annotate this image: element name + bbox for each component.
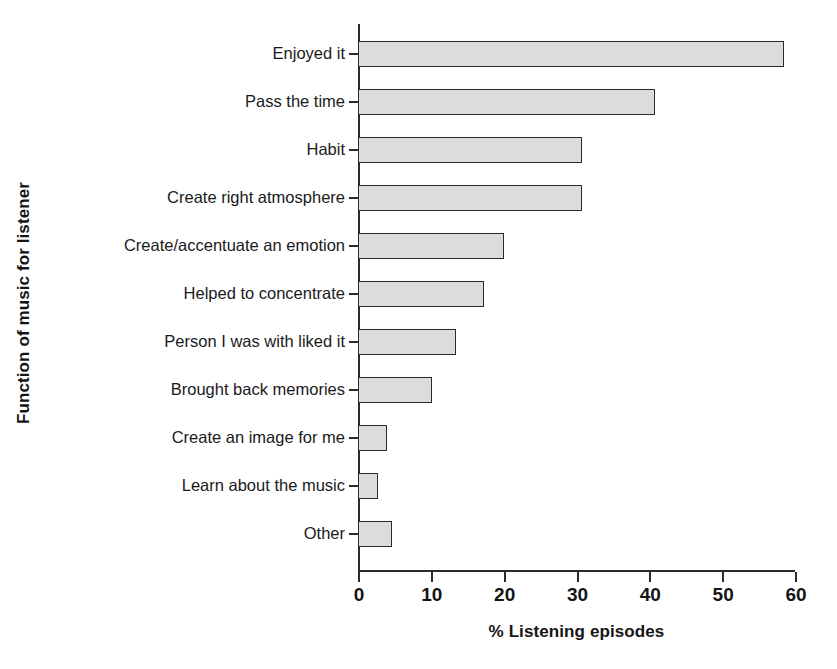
y-axis-title: Function of music for listener — [8, 18, 40, 588]
y-axis-tick — [349, 197, 358, 199]
category-label: Habit — [306, 139, 345, 159]
y-axis-tick — [349, 437, 358, 439]
x-axis-tick — [795, 572, 797, 582]
bar — [358, 137, 582, 163]
y-axis-tick — [349, 293, 358, 295]
y-axis-tick — [349, 245, 358, 247]
bar — [358, 41, 784, 67]
x-axis-tick-label: 50 — [703, 584, 743, 606]
category-label: Create right atmosphere — [167, 187, 345, 207]
x-axis-tick-label: 30 — [558, 584, 598, 606]
x-axis-tick-label: 40 — [630, 584, 670, 606]
x-axis-tick — [431, 572, 433, 582]
bar — [358, 185, 582, 211]
y-axis-tick — [349, 101, 358, 103]
y-axis-tick — [349, 149, 358, 151]
bar — [358, 473, 378, 499]
x-axis-tick — [504, 572, 506, 582]
category-label: Learn about the music — [182, 475, 345, 495]
bar — [358, 521, 392, 547]
category-label: Pass the time — [245, 91, 345, 111]
x-axis-tick — [649, 572, 651, 582]
bar-chart: Function of music for listener Enjoyed i… — [0, 0, 837, 669]
category-label: Create an image for me — [172, 427, 345, 447]
bar — [358, 377, 432, 403]
x-axis-tick-label: 0 — [339, 584, 379, 606]
y-axis-tick — [349, 389, 358, 391]
category-label: Other — [304, 523, 345, 543]
x-axis-tick — [577, 572, 579, 582]
x-axis-tick — [722, 572, 724, 582]
plot-area: Enjoyed itPass the timeHabitCreate right… — [358, 24, 798, 570]
y-axis-tick — [349, 53, 358, 55]
bar — [358, 329, 456, 355]
category-label: Helped to concentrate — [184, 283, 345, 303]
bar — [358, 89, 655, 115]
category-label: Enjoyed it — [273, 43, 345, 63]
x-axis-tick — [358, 572, 360, 582]
bar — [358, 281, 484, 307]
y-axis-tick — [349, 485, 358, 487]
x-axis-tick-label: 10 — [412, 584, 452, 606]
x-axis-tick-label: 60 — [776, 584, 816, 606]
x-axis-title: % Listening episodes — [358, 622, 795, 642]
category-label: Create/accentuate an emotion — [124, 235, 345, 255]
category-label: Brought back memories — [171, 379, 345, 399]
category-label: Person I was with liked it — [164, 331, 345, 351]
x-axis-tick-label: 20 — [485, 584, 525, 606]
y-axis-tick — [349, 533, 358, 535]
y-axis-tick — [349, 341, 358, 343]
bar — [358, 233, 504, 259]
bar — [358, 425, 387, 451]
